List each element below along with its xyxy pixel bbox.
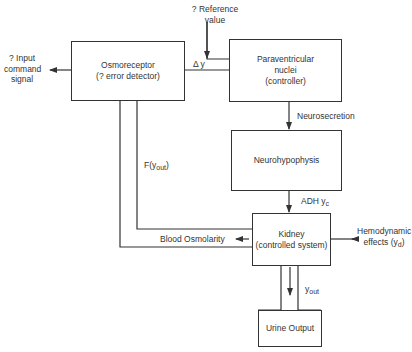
input-command-line1: ? Input <box>4 53 40 64</box>
paraventricular-label-2: nuclei <box>274 65 296 76</box>
neurohypophysis-label: Neurohypophysis <box>254 155 320 166</box>
neurohypophysis-block: Neurohypophysis <box>231 130 342 191</box>
reference-line2: value <box>186 15 244 26</box>
kidney-block: Kidney (controlled system) <box>252 213 331 266</box>
adh-label: ADH yc <box>301 196 329 207</box>
yout-label: yout <box>305 284 319 295</box>
neurosecretion-label: Neurosecretion <box>297 111 355 122</box>
f-yout-tail: ) <box>166 160 169 170</box>
f-yout-sub: out <box>156 164 166 171</box>
hemodynamic-label: Hemodynamic effects (yd) <box>357 226 411 247</box>
osmoreceptor-block: Osmoreceptor (? error detector) <box>71 41 185 101</box>
f-yout-label: F(yout) <box>144 160 169 171</box>
yout-sub: out <box>309 288 319 295</box>
delta-y-label: Δ y <box>193 59 205 70</box>
adh-text: ADH y <box>301 196 326 206</box>
reference-value-label: ? Reference value <box>186 4 244 25</box>
input-command-line3: signal <box>4 74 40 85</box>
osmoreceptor-sublabel: (? error detector) <box>96 71 160 82</box>
input-command-line2: command <box>4 64 40 75</box>
f-yout-text: F(y <box>144 160 156 170</box>
adh-sub: c <box>326 200 330 207</box>
kidney-label: Kidney <box>279 229 305 240</box>
hemodynamic-text: effects (y <box>363 237 397 247</box>
hemodynamic-tail: ) <box>402 237 405 247</box>
urine-output-block: Urine Output <box>258 310 322 347</box>
connector-lines <box>0 0 412 352</box>
osmoreceptor-label: Osmoreceptor <box>101 60 155 71</box>
hemodynamic-line1: Hemodynamic <box>357 226 411 237</box>
urine-output-label: Urine Output <box>266 323 314 334</box>
kidney-sublabel: (controlled system) <box>256 240 328 251</box>
blood-osmolarity-label: Blood Osmolarity <box>160 234 225 245</box>
paraventricular-label: Paraventricular <box>257 54 314 65</box>
paraventricular-sublabel: (controller) <box>265 76 306 87</box>
hemodynamic-line2: effects (yd) <box>357 237 411 248</box>
paraventricular-block: Paraventricular nuclei (controller) <box>229 39 342 102</box>
reference-line1: ? Reference <box>186 4 244 15</box>
input-command-label: ? Input command signal <box>4 53 40 85</box>
